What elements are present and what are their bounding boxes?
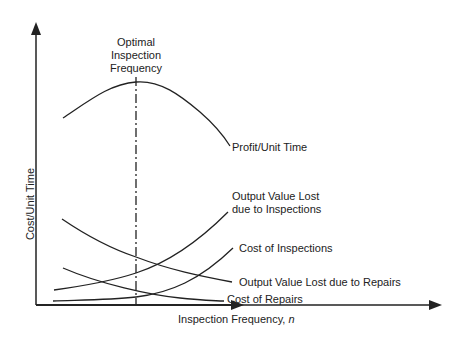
x-axis-label: Inspection Frequency, n <box>178 313 295 326</box>
label-cost-repairs: Cost of Repairs <box>227 293 303 306</box>
label-output-lost-inspections-line2: due to Inspections <box>232 203 321 216</box>
optimal-label-line2: Inspection <box>100 49 172 62</box>
label-cost-inspections: Cost of Inspections <box>239 242 333 255</box>
label-output-lost-inspections-line1: Output Value Lost <box>232 190 321 203</box>
optimal-frequency-label: Optimal Inspection Frequency <box>100 36 172 75</box>
x-axis-arrowhead-icon <box>429 300 442 310</box>
x-axis-label-text: Inspection Frequency, <box>178 313 288 325</box>
x-axis-variable: n <box>288 313 294 325</box>
label-profit: Profit/Unit Time <box>232 141 307 154</box>
label-output-lost-repairs: Output Value Lost due to Repairs <box>239 276 401 289</box>
optimal-label-line3: Frequency <box>100 62 172 75</box>
y-axis-label: Cost/Unit Time <box>24 144 36 264</box>
label-output-lost-inspections: Output Value Lost due to Inspections <box>232 190 321 216</box>
optimal-label-line1: Optimal <box>100 36 172 49</box>
